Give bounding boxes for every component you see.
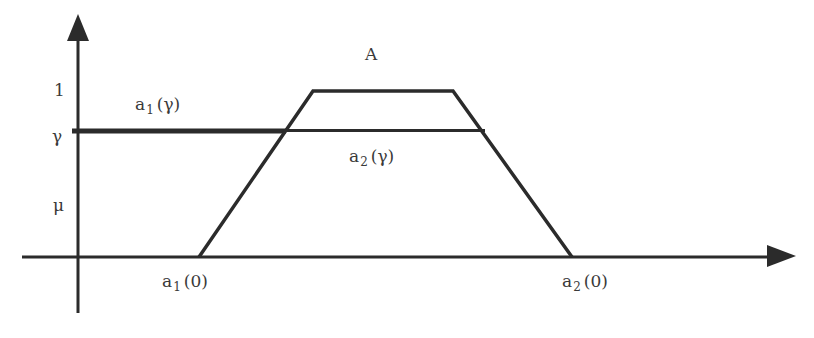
label-a1-zero: a1(0): [162, 273, 208, 293]
fuzzy-set-label: A: [365, 46, 377, 63]
x-axis-arrow-icon: [767, 245, 796, 267]
trapezoid-membership-function: [199, 91, 572, 257]
y-axis-arrow-icon: [67, 14, 89, 41]
label-a2-gamma: a2(γ): [349, 148, 394, 168]
label-a1-gamma: a1(γ): [135, 96, 180, 116]
fuzzy-number-diagram: A 1 γ μ a1(γ) a2(γ) a1(0) a2(0): [0, 0, 814, 338]
label-a2-zero: a2(0): [562, 273, 608, 293]
diagram-canvas: [0, 0, 814, 338]
y-axis-label-mu: μ: [53, 197, 64, 214]
y-tick-1: 1: [54, 82, 65, 99]
y-tick-gamma: γ: [52, 128, 62, 145]
